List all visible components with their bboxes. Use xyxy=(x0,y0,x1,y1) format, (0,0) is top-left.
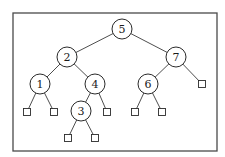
tree-node-2: 2 xyxy=(57,47,77,67)
null-leaf-1-right xyxy=(51,109,58,116)
tree-node-7: 7 xyxy=(166,47,186,67)
tree-node-6: 6 xyxy=(138,74,158,94)
null-leaf-6-left xyxy=(132,109,139,116)
node-label: 6 xyxy=(145,78,152,91)
tree-node-1: 1 xyxy=(30,74,50,94)
node-label: 7 xyxy=(173,51,180,64)
tree-node-4: 4 xyxy=(85,74,105,94)
null-leaf-3-right xyxy=(92,135,99,142)
null-leaf-7-right xyxy=(199,81,206,88)
null-leaf-1-left xyxy=(24,109,31,116)
node-label: 4 xyxy=(92,78,99,91)
edges-layer xyxy=(27,29,202,138)
null-leaf-6-right xyxy=(159,109,166,116)
node-label: 5 xyxy=(119,23,126,36)
node-label: 2 xyxy=(64,51,71,64)
null-leaf-4-right xyxy=(104,109,111,116)
leaves-layer xyxy=(24,81,206,142)
tree-node-3: 3 xyxy=(71,101,91,121)
binary-search-tree-diagram: 5271463 xyxy=(0,0,225,157)
null-leaf-3-left xyxy=(65,135,72,142)
node-label: 1 xyxy=(37,78,44,91)
tree-node-5: 5 xyxy=(112,19,132,39)
node-label: 3 xyxy=(78,105,85,118)
